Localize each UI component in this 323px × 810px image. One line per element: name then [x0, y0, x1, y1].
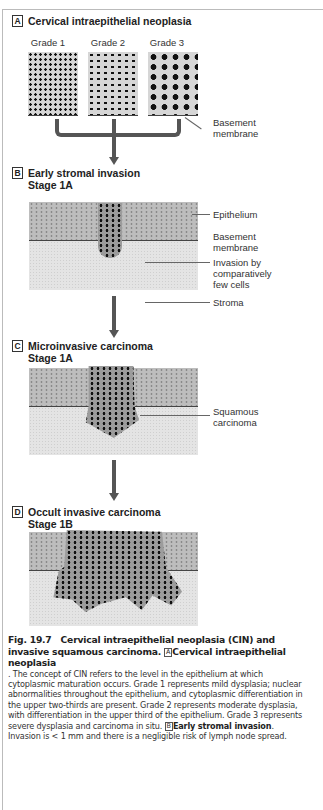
arrow-head-icon [109, 157, 119, 165]
label-line: Basement [213, 117, 258, 128]
stroma-pointer [145, 302, 210, 303]
label-line: Basement [213, 231, 258, 242]
panel-a-letter: A [12, 15, 23, 27]
arrow-a-to-b [112, 119, 116, 159]
epithelium-label: Epithelium [213, 209, 257, 220]
basement-membrane-a-label: Basement membrane [213, 117, 258, 139]
panel-b-stage: Stage 1A [28, 179, 140, 191]
panel-c-header: CMicroinvasive carcinoma Stage 1A [12, 340, 153, 364]
merge-bracket [55, 119, 181, 137]
grade-3-image [148, 52, 198, 116]
label-line: membrane [213, 242, 258, 253]
caption-b-box: B [165, 722, 173, 731]
panel-c-stage: Stage 1A [28, 352, 153, 364]
label-line: Invasion by [213, 257, 272, 268]
panel-c-title: Microinvasive carcinoma [28, 340, 153, 352]
panel-b-title: Early stromal invasion [28, 167, 140, 179]
panel-d-letter: D [12, 506, 23, 518]
figure-caption: Fig. 19.7 Cervical intraepithelial neopl… [8, 634, 304, 741]
figure-number: Fig. 19.7 [8, 634, 52, 645]
panel-c-letter: C [12, 340, 23, 352]
panel-d-header: DOccult invasive carcinoma Stage 1B [12, 506, 160, 530]
arrow-head-icon [109, 493, 119, 501]
panel-a-title: Cervical intraepithelial neoplasia [28, 15, 191, 27]
arrow-head-icon [109, 330, 119, 338]
stroma-label: Stroma [213, 297, 244, 308]
squamous-pointer [140, 415, 210, 416]
grade-3-label: Grade 3 [141, 37, 193, 48]
label-line: carcinoma [213, 417, 258, 428]
caption-b-heading: Early stromal invasion [173, 721, 271, 731]
label-line: comparatively [213, 268, 272, 279]
panel-b-header: BEarly stromal invasion Stage 1A [12, 167, 140, 191]
grade-1-label: Grade 1 [22, 37, 74, 48]
arrow-b-to-c [112, 296, 116, 332]
panel-d-stage: Stage 1B [28, 518, 160, 530]
invasion-pointer [145, 262, 210, 263]
panel-a-header: ACervical intraepithelial neoplasia [12, 15, 191, 27]
panel-d-title: Occult invasive carcinoma [28, 506, 160, 518]
basement-membrane-b-label: Basement membrane [213, 231, 258, 253]
label-line: membrane [213, 128, 258, 139]
grade-2-image [88, 52, 138, 116]
epithelium-pointer [192, 214, 210, 215]
squamous-carcinoma-label: Squamous carcinoma [213, 406, 258, 428]
grade-2-label: Grade 2 [82, 37, 134, 48]
invasion-cells-b [98, 203, 122, 258]
caption-title: Fig. 19.7 Cervical intraepithelial neopl… [8, 634, 304, 669]
panel-b-letter: B [12, 167, 23, 179]
invasion-label: Invasion by comparatively few cells [213, 257, 272, 290]
arrow-c-to-d [112, 460, 116, 495]
grade-1-image [28, 52, 78, 116]
label-line: few cells [213, 279, 272, 290]
label-line: Squamous [213, 406, 258, 417]
